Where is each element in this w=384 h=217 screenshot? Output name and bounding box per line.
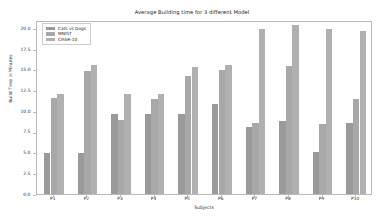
y-axis-tick-label: 15.0 <box>20 67 30 72</box>
bar <box>151 99 158 194</box>
y-axis-tick-mark <box>33 112 35 113</box>
bar <box>313 152 320 194</box>
bar <box>91 65 98 194</box>
bar <box>353 99 360 194</box>
y-axis-tick-label: 20.0 <box>20 26 30 31</box>
x-axis-tick-mark <box>187 195 188 197</box>
x-axis-tick-mark <box>288 195 289 197</box>
bar <box>225 65 232 194</box>
bar <box>158 94 165 194</box>
x-axis-tick-mark <box>120 195 121 197</box>
legend-swatch-icon <box>46 38 55 41</box>
y-axis-tick-mark <box>33 174 35 175</box>
bar <box>118 120 125 194</box>
legend-item[interactable]: CIFAR-10 <box>46 37 86 42</box>
chart-title: Average Building time for 3 different Mo… <box>0 9 384 15</box>
bar <box>178 114 185 194</box>
y-axis-tick-label: 2.5 <box>23 171 30 176</box>
y-axis-tick-label: 7.5 <box>23 129 30 134</box>
y-axis-tick-label: 17.5 <box>20 47 30 52</box>
y-axis-tick-label: 5.0 <box>23 150 30 155</box>
bar <box>145 114 152 194</box>
bar <box>326 29 333 194</box>
bar <box>346 123 353 194</box>
chart-figure: Average Building time for 3 different Mo… <box>0 0 384 217</box>
y-axis-tick-label: 0.0 <box>23 192 30 197</box>
bar <box>192 67 199 194</box>
chart-legend: Cats vs DogsMNISTCIFAR-10 <box>42 23 91 45</box>
x-axis-label: Subjects <box>36 205 372 210</box>
y-axis-label: Build Time in Minutes <box>8 4 13 154</box>
y-axis-tick-mark <box>33 29 35 30</box>
y-axis-tick-mark <box>33 133 35 134</box>
x-axis-tick-mark <box>86 195 87 197</box>
bar <box>185 76 192 194</box>
bar <box>51 98 58 194</box>
plot-frame <box>36 21 372 195</box>
x-axis-tick-mark <box>154 195 155 197</box>
bar <box>279 121 286 194</box>
y-axis-tick-label: 10.0 <box>20 109 30 114</box>
y-axis-tick-label: 12.5 <box>20 88 30 93</box>
x-axis-tick-mark <box>355 195 356 197</box>
legend-item-label: CIFAR-10 <box>58 37 77 42</box>
x-axis-tick-mark <box>221 195 222 197</box>
bar <box>111 114 118 194</box>
bar <box>360 31 367 194</box>
bar <box>246 127 253 194</box>
legend-swatch-icon <box>46 27 55 30</box>
x-axis-tick-mark <box>254 195 255 197</box>
x-axis-tick-mark <box>53 195 54 197</box>
bar <box>44 153 51 194</box>
plot-area <box>37 22 371 194</box>
bar <box>319 124 326 194</box>
x-axis-tick-mark <box>322 195 323 197</box>
bar <box>252 123 259 194</box>
bar <box>212 104 219 194</box>
legend-swatch-icon <box>46 32 55 35</box>
bar <box>78 153 85 194</box>
bar <box>57 94 64 194</box>
bar <box>292 25 299 194</box>
bar <box>219 70 226 194</box>
y-axis-tick-mark <box>33 70 35 71</box>
bar <box>84 71 91 194</box>
y-axis-tick-mark <box>33 50 35 51</box>
bar <box>286 66 293 194</box>
bar <box>259 29 266 194</box>
y-axis-tick-mark <box>33 91 35 92</box>
bar <box>124 94 131 194</box>
y-axis-tick-mark <box>33 153 35 154</box>
